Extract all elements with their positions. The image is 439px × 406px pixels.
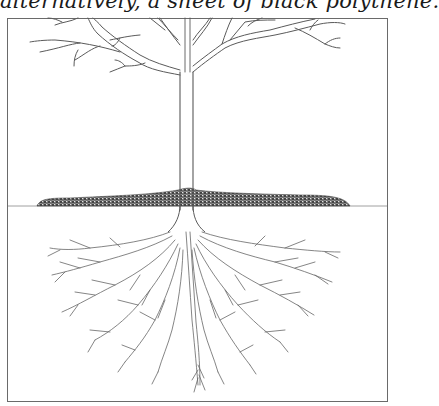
tree-crown [30, 18, 345, 210]
root-system [48, 232, 340, 392]
trunk [168, 205, 205, 232]
illustration-frame [8, 19, 388, 402]
